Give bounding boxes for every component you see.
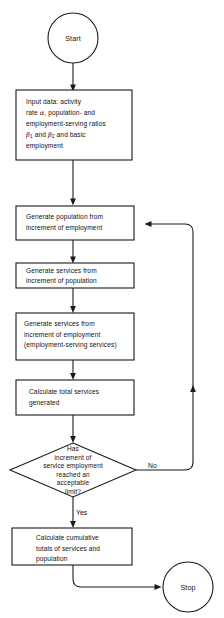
node-limit-decision-line-4: reached an [56, 471, 90, 478]
node-calculate-cumulative-line-1: Calculate cumulative [36, 534, 99, 541]
node-limit-decision-line-6: limit? [65, 488, 81, 495]
node-limit-decision[interactable]: Has increment of service employment reac… [10, 443, 136, 497]
node-input-data[interactable]: Input data: activity rate α, population-… [16, 90, 132, 160]
node-limit-decision-line-5: acceptable [57, 479, 90, 487]
node-calculate-cumulative-line-2: totals of services and [36, 545, 100, 552]
edge-decision-no-feedback [136, 221, 196, 470]
node-start[interactable]: Start [48, 13, 98, 63]
flowchart-page: Start Input data: activity rate α, popul… [0, 0, 224, 618]
node-generate-services-employment[interactable]: Generate services from increment of empl… [16, 313, 134, 360]
node-generate-services-population-line-2: increment of population [26, 277, 97, 285]
node-stop-label: Stop [180, 583, 195, 592]
edge-services-employment-to-total [70, 360, 76, 380]
edge-label-yes: Yes [76, 509, 88, 516]
flowchart-diagram: Start Input data: activity rate α, popul… [0, 0, 224, 618]
node-start-label: Start [65, 34, 81, 43]
node-generate-population-line-2: increment of employment [26, 224, 102, 232]
node-limit-decision-line-1: Has [67, 445, 80, 452]
node-calculate-total-services-line-1: Calculate total services [29, 388, 100, 395]
node-input-data-line-3: employment-serving ratios [26, 120, 106, 128]
node-generate-population-line-1: Generate population from [26, 213, 104, 221]
node-input-data-line-5: employment [26, 142, 63, 150]
node-limit-decision-line-2: increment of [55, 454, 92, 461]
edge-label-no: No [148, 462, 157, 469]
node-input-data-line-1: Input data: activity [26, 98, 82, 106]
edge-population-to-services-population [70, 240, 76, 264]
node-calculate-total-services-line-2: generated [29, 399, 60, 407]
node-calculate-cumulative[interactable]: Calculate cumulative totals of services … [12, 528, 132, 565]
node-generate-services-employment-line-3: (employment-serving services) [24, 341, 117, 349]
edge-input-to-generate-population [70, 160, 76, 206]
edge-cumulative-to-stop [73, 565, 162, 590]
node-generate-services-employment-line-1: Generate services from [24, 320, 95, 327]
node-generate-services-population[interactable]: Generate services from increment of popu… [16, 263, 134, 288]
edge-services-population-to-services-employment [70, 288, 76, 313]
node-generate-services-population-line-1: Generate services from [26, 267, 97, 274]
node-calculate-total-services[interactable]: Calculate total services generated [16, 380, 134, 415]
node-calculate-cumulative-line-3: population [36, 555, 68, 563]
node-generate-services-employment-line-2: increment of employment [24, 331, 100, 339]
node-generate-population[interactable]: Generate population from increment of em… [16, 206, 134, 240]
edge-start-to-input [70, 63, 76, 92]
node-limit-decision-line-3: service employment [43, 462, 103, 470]
node-input-data-line-2: rate α, population- and [26, 109, 95, 117]
node-stop[interactable]: Stop [163, 562, 213, 612]
edge-total-to-decision [70, 415, 76, 443]
